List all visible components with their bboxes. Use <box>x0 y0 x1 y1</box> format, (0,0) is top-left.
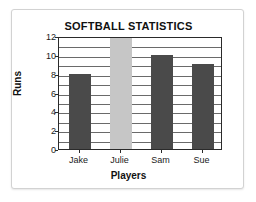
y-axis-tick-label: 6 <box>34 89 56 98</box>
y-axis-tick-label: 4 <box>34 108 56 117</box>
bar <box>69 74 91 149</box>
y-axis-tick <box>55 56 58 57</box>
y-axis-tick-label: 12 <box>34 33 56 42</box>
y-axis-tick <box>55 75 58 76</box>
x-axis-tick-labels: JakeJulieSamSue <box>58 155 222 167</box>
y-axis-tick-label: 0 <box>34 146 56 155</box>
y-axis-tick-label: 2 <box>34 127 56 136</box>
x-axis-tick-label: Julie <box>100 155 140 165</box>
x-axis-tick <box>161 150 162 153</box>
x-axis-title: Players <box>12 170 245 181</box>
bar <box>151 55 173 149</box>
bar <box>110 37 132 149</box>
y-axis-tick <box>55 112 58 113</box>
chart-card: SOFTBALL STATISTICS Runs 024681012 JakeJ… <box>11 9 244 189</box>
y-axis-tick <box>55 94 58 95</box>
y-axis-tick <box>55 150 58 151</box>
screenshot-root: SOFTBALL STATISTICS Runs 024681012 JakeJ… <box>0 0 256 202</box>
x-axis-tick <box>120 150 121 153</box>
y-axis-title: Runs <box>12 71 23 96</box>
y-axis-tick-label: 10 <box>34 51 56 60</box>
y-axis-tick <box>55 131 58 132</box>
bar <box>192 64 214 149</box>
chart-title: SOFTBALL STATISTICS <box>12 20 245 32</box>
x-axis-tick-label: Sam <box>141 155 181 165</box>
y-axis-tick-labels: 024681012 <box>34 37 56 150</box>
x-axis-tick-label: Jake <box>59 155 99 165</box>
x-axis-tick <box>202 150 203 153</box>
x-axis-tick <box>79 150 80 153</box>
y-axis-tick-label: 8 <box>34 70 56 79</box>
bar-series <box>59 38 221 149</box>
x-axis-tick-label: Sue <box>182 155 222 165</box>
y-axis-tick <box>55 37 58 38</box>
plot-area <box>58 37 222 150</box>
